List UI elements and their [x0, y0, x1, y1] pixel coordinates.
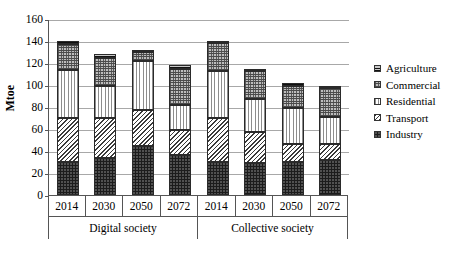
legend-label: Transport	[386, 112, 428, 124]
bar-segment-transport	[132, 110, 154, 145]
x-axis-tick-labels: 20142030205020722014203020502072	[48, 196, 348, 217]
bar-segment-industry	[57, 162, 79, 195]
legend-item-agriculture[interactable]: Agriculture	[374, 60, 454, 77]
legend-swatch-residential-icon	[374, 98, 381, 105]
bar-segment-transport	[57, 118, 79, 162]
bar-segment-commercial	[207, 43, 229, 71]
bar-segment-agriculture	[319, 86, 341, 88]
bar-segment-industry	[207, 162, 229, 195]
legend-swatch-industry-icon	[374, 131, 381, 138]
bar-segment-transport	[319, 144, 341, 159]
legend-label: Residential	[386, 95, 436, 107]
stacked-bar-chart: Mtoe 020406080100120140160 2014203020502…	[0, 0, 456, 260]
bar-segment-residential	[94, 86, 116, 118]
legend-label: Industry	[386, 128, 423, 140]
y-axis-tick-label: 120	[26, 58, 43, 70]
chart-legend: AgricultureCommercialResidentialTranspor…	[374, 60, 454, 143]
x-axis-label-2072-digital: 2072	[161, 196, 199, 216]
legend-label: Commercial	[386, 79, 440, 91]
bar-collective-2072	[319, 86, 341, 195]
x-axis-label-2014-collective: 2014	[198, 196, 236, 216]
y-axis-tick-label: 100	[26, 80, 43, 92]
y-axis-tick-label: 60	[32, 124, 44, 136]
y-axis-tick	[45, 42, 49, 43]
y-axis-tick	[45, 108, 49, 109]
y-axis-tick	[45, 20, 49, 21]
y-axis-title: Mtoe	[3, 96, 18, 112]
bar-segment-residential	[169, 105, 191, 130]
bar-segment-transport	[244, 132, 266, 163]
bar-segment-agriculture	[207, 41, 229, 43]
bar-segment-commercial	[132, 52, 154, 61]
legend-item-residential[interactable]: Residential	[374, 93, 454, 110]
x-axis-label-2072-collective: 2072	[311, 196, 349, 216]
bar-collective-2014	[207, 41, 229, 195]
y-axis-tick-label: 0	[37, 190, 43, 202]
x-axis-label-2014-digital: 2014	[48, 196, 86, 216]
bar-segment-transport	[169, 130, 191, 155]
bar-segment-agriculture	[169, 65, 191, 68]
plot-area: 020406080100120140160	[48, 20, 348, 196]
bar-segment-agriculture	[282, 83, 304, 86]
y-axis-tick-label: 40	[32, 146, 44, 158]
bar-segment-transport	[207, 118, 229, 162]
bar-segment-residential	[57, 70, 79, 118]
bar-segment-agriculture	[57, 41, 79, 44]
bar-collective-2050	[282, 83, 304, 195]
bar-segment-industry	[169, 155, 191, 195]
y-axis-tick	[45, 174, 49, 175]
y-axis-tick	[45, 130, 49, 131]
legend-label: Agriculture	[386, 62, 437, 74]
bar-segment-commercial	[169, 69, 191, 105]
gridline	[49, 20, 349, 21]
bar-segment-industry	[132, 146, 154, 196]
legend-item-industry[interactable]: Industry	[374, 126, 454, 143]
bar-segment-agriculture	[244, 69, 266, 71]
group-label-collective: Collective society	[198, 217, 348, 239]
y-axis-tick-label: 20	[32, 168, 44, 180]
bar-segment-industry	[319, 160, 341, 195]
bar-segment-residential	[132, 61, 154, 111]
y-axis-tick-label: 160	[26, 14, 43, 26]
bar-segment-commercial	[94, 58, 116, 87]
bar-segment-residential	[207, 71, 229, 118]
bar-segment-residential	[244, 99, 266, 132]
bar-digital-2050	[132, 50, 154, 195]
legend-item-commercial[interactable]: Commercial	[374, 77, 454, 94]
group-label-digital: Digital society	[48, 217, 198, 239]
bar-digital-2014	[57, 41, 79, 195]
bar-segment-transport	[282, 144, 304, 162]
x-axis-label-2050-digital: 2050	[123, 196, 161, 216]
bar-segment-transport	[94, 118, 116, 158]
x-axis-group-labels: Digital societyCollective society	[48, 217, 348, 239]
y-axis-tick-label: 140	[26, 36, 43, 48]
legend-item-transport[interactable]: Transport	[374, 110, 454, 127]
bar-segment-residential	[319, 117, 341, 145]
bar-segment-commercial	[319, 88, 341, 117]
bar-segment-agriculture	[132, 50, 154, 52]
bar-segment-agriculture	[94, 54, 116, 57]
bar-segment-industry	[282, 162, 304, 195]
x-axis-label-2050-collective: 2050	[273, 196, 311, 216]
legend-swatch-agriculture-icon	[374, 65, 381, 72]
gridline	[49, 42, 349, 43]
bar-collective-2030	[244, 69, 266, 196]
bar-segment-industry	[244, 163, 266, 195]
legend-swatch-transport-icon	[374, 114, 381, 121]
bar-digital-2030	[94, 54, 116, 195]
bar-segment-commercial	[57, 44, 79, 69]
x-axis-label-2030-digital: 2030	[86, 196, 124, 216]
bar-digital-2072	[169, 65, 191, 195]
y-axis-tick	[45, 86, 49, 87]
y-axis-tick-label: 80	[32, 102, 44, 114]
y-axis-tick	[45, 152, 49, 153]
bar-segment-commercial	[244, 71, 266, 100]
x-axis-label-2030-collective: 2030	[236, 196, 274, 216]
legend-swatch-commercial-icon	[374, 81, 381, 88]
bar-segment-residential	[282, 108, 304, 144]
y-axis-tick	[45, 64, 49, 65]
bar-segment-commercial	[282, 86, 304, 108]
bar-segment-industry	[94, 158, 116, 195]
